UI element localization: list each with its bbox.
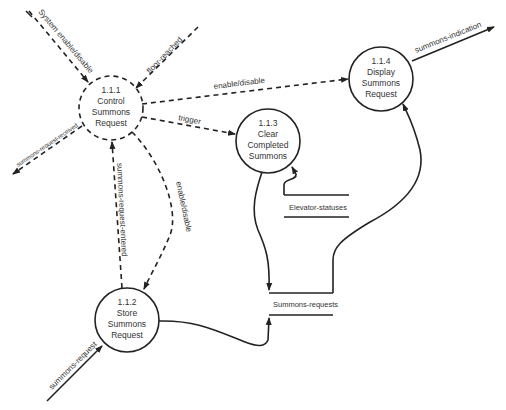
flow-line [159, 318, 269, 346]
flow-enable-disable-to-display[interactable]: enable/disable [142, 76, 348, 104]
process-1-1-2-line1: Store [117, 308, 138, 318]
flow-summons-requests-to-display[interactable] [333, 104, 421, 293]
process-1-1-3-line2: Completed [247, 140, 288, 150]
flow-line [284, 167, 296, 195]
flow-summons-indication[interactable]: summons-indication [412, 20, 494, 61]
flow-floor-reached[interactable]: floor-reached [136, 27, 198, 88]
process-1-1-4-line2: Summons [362, 78, 400, 88]
process-1-1-2-id: 1.1.2 [118, 297, 137, 307]
flow-label: System enable/disable [36, 8, 95, 76]
store-summons-requests[interactable]: Summons-requests [269, 293, 338, 315]
process-1-1-1[interactable]: 1.1.1 Control Summons Request [79, 76, 143, 140]
data-flow-diagram: 1.1.1 Control Summons Request 1.1.2 Stor… [0, 0, 506, 410]
process-1-1-4-line1: Display [367, 67, 396, 77]
flow-line [13, 126, 82, 174]
process-1-1-1-line2: Summons [92, 107, 130, 117]
flow-line [254, 172, 269, 290]
flow-label: summons-indication [413, 20, 482, 55]
process-1-1-1-id: 1.1.1 [102, 85, 121, 95]
flow-label: summons-request-entered [115, 163, 129, 257]
process-1-1-4[interactable]: 1.1.4 Display Summons Request [349, 47, 413, 111]
process-1-1-3-id: 1.1.3 [259, 118, 278, 128]
flow-summons-request[interactable]: summons-request [47, 339, 102, 401]
store-summons-requests-label: Summons-requests [273, 300, 338, 309]
flow-summons-request-received[interactable]: summons-request-received [13, 122, 82, 174]
process-1-1-3[interactable]: 1.1.3 Clear Completed Summons [236, 109, 300, 173]
flow-elevator-statuses-to-clear[interactable] [284, 167, 296, 195]
flow-system-enable-disable[interactable]: System enable/disable [26, 8, 95, 82]
flow-label: summons-request-received [15, 122, 79, 168]
process-1-1-2[interactable]: 1.1.2 Store Summons Request [95, 288, 159, 352]
flow-label: floor-reached [145, 35, 184, 75]
store-elevator-statuses-label: Elevator-statuses [289, 203, 347, 212]
flow-line [47, 346, 102, 401]
process-1-1-2-line3: Request [111, 330, 143, 340]
flow-label: summons-request [47, 339, 99, 391]
process-1-1-1-line1: Control [97, 96, 125, 106]
flow-label: enable/disable [213, 76, 266, 91]
flow-line [29, 11, 88, 82]
process-1-1-3-line1: Clear [258, 129, 278, 139]
flow-store-to-summons-requests[interactable] [159, 318, 269, 346]
flow-trigger[interactable]: trigger [142, 113, 235, 134]
process-1-1-3-line3: Summons [249, 151, 287, 161]
store-elevator-statuses[interactable]: Elevator-statuses [284, 195, 349, 217]
flow-summons-request-entered[interactable]: summons-request-entered [112, 142, 129, 288]
flow-enable-disable-to-store[interactable]: enable/disable [132, 132, 194, 289]
process-1-1-4-line3: Request [365, 89, 397, 99]
flow-line [333, 104, 421, 293]
flow-line [132, 132, 173, 289]
flow-clear-to-summons-requests[interactable] [254, 172, 269, 290]
process-1-1-4-id: 1.1.4 [372, 56, 391, 66]
process-1-1-1-line3: Request [95, 118, 127, 128]
process-1-1-2-line2: Summons [108, 319, 146, 329]
flow-label: enable/disable [174, 181, 194, 234]
